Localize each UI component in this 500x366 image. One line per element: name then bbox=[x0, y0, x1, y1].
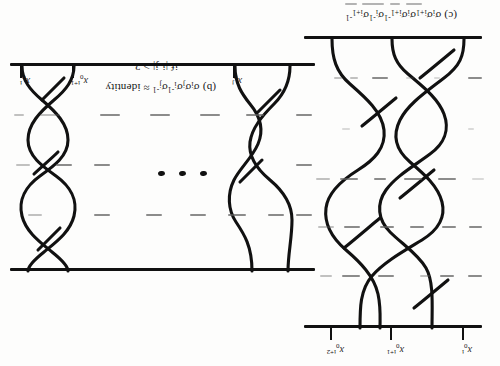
panel-b-ellipsis bbox=[147, 166, 207, 176]
panel-c-overpass-3 bbox=[400, 170, 434, 198]
panel-b-braid-strands bbox=[0, 0, 250, 366]
panel-c-dash-row-2 bbox=[250, 226, 500, 228]
panel-b-dash-row-3 bbox=[0, 114, 250, 116]
ellipsis-dot-2 bbox=[179, 171, 187, 177]
panel-c-overpass-4 bbox=[344, 218, 380, 248]
panel-c-dash-row-1 bbox=[250, 275, 500, 277]
ellipsis-dot-3 bbox=[158, 171, 166, 177]
panel-b: if |i-j| > 2 (b) σiσjσi-1σj-1 ≈ identity… bbox=[0, 0, 250, 366]
panel-c-strand-c bbox=[326, 39, 385, 328]
panel-b-right-over-1 bbox=[42, 78, 64, 100]
panel-c-overpass-2 bbox=[362, 98, 396, 126]
panel-c: (c) σiσi+1σiσi+1-1σi-1σi+1-1 x0i x0i+1 x… bbox=[250, 0, 500, 366]
panel-c-braid-strands bbox=[250, 0, 500, 366]
panel-c-dash-row-3 bbox=[250, 178, 500, 180]
panel-b-dash-row-1 bbox=[0, 214, 250, 216]
panel-c-dash-row-5 bbox=[250, 128, 500, 130]
panel-b-dash-row-2 bbox=[0, 164, 250, 166]
scanned-figure-page: (c) σiσi+1σiσi+1-1σi-1σi+1-1 x0i x0i+1 x… bbox=[0, 0, 500, 366]
ellipsis-dot-1 bbox=[200, 171, 208, 177]
